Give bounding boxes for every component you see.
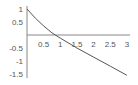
x-tick-label: 3 bbox=[125, 40, 130, 49]
y-tick-label: -0.5 bbox=[9, 44, 23, 53]
y-tick-label: -1.5 bbox=[9, 70, 23, 79]
x-tick-label: 2 bbox=[91, 40, 96, 49]
x-tick-label: 0.5 bbox=[38, 40, 50, 49]
y-tick-label: -1 bbox=[16, 57, 24, 66]
chart: 0.511.522.53 10.5-0.5-1-1.5 bbox=[0, 0, 138, 85]
y-tick-label: 1 bbox=[19, 5, 24, 14]
x-tick-label: 1 bbox=[58, 40, 63, 49]
x-tick-labels: 0.511.522.53 bbox=[38, 40, 130, 49]
y-tick-labels: 10.5-0.5-1-1.5 bbox=[9, 5, 23, 79]
x-tick-label: 2.5 bbox=[105, 40, 117, 49]
y-tick-label: 0.5 bbox=[12, 18, 24, 27]
